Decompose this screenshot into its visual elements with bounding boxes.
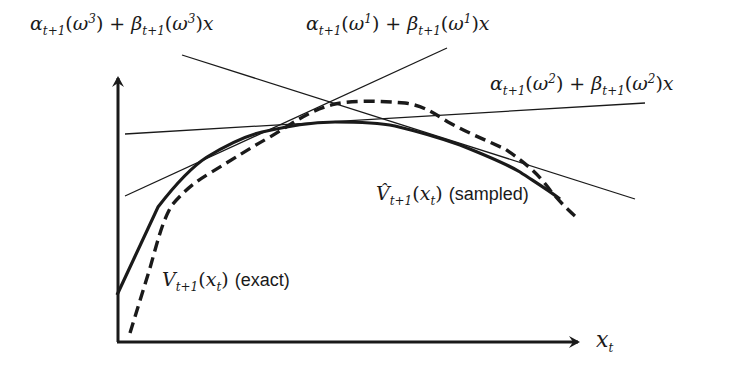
cut1-label: αt+1(ω1) + βt+1(ω1)x bbox=[306, 12, 490, 38]
sampled-curve-label: V̂t+1(xt) (sampled) bbox=[376, 182, 529, 208]
cut3-label: αt+1(ω3) + βt+1(ω3)x bbox=[30, 12, 214, 38]
x-axis-label: xt bbox=[596, 327, 613, 355]
exact-value-curve bbox=[130, 101, 575, 333]
exact-curve-label: Vt+1(xt) (exact) bbox=[162, 268, 290, 294]
cut2-label: αt+1(ω2) + βt+1(ω2)x bbox=[490, 72, 674, 98]
cut-line-omega1 bbox=[125, 48, 447, 196]
diagram-canvas bbox=[0, 0, 743, 367]
cut-line-omega2 bbox=[125, 103, 645, 134]
